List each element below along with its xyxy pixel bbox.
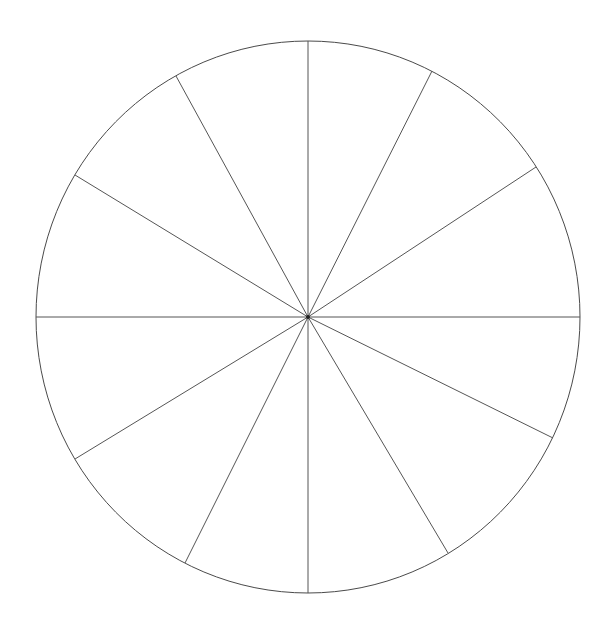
center-point	[306, 315, 310, 319]
diagram-canvas	[0, 0, 609, 629]
circle-sector-diagram	[0, 0, 609, 629]
